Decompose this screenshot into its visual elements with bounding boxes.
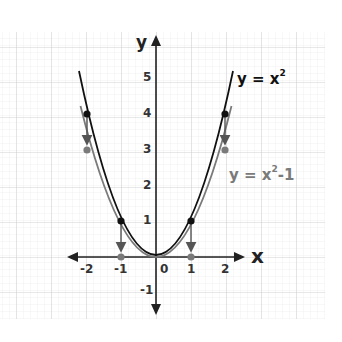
y-tick-1: 1 [143, 213, 151, 227]
x-tick-0: 0 [160, 262, 168, 276]
x-tick-1: 1 [187, 262, 195, 276]
y-tick-4: 4 [143, 106, 151, 120]
y-tick-5: 5 [143, 70, 151, 84]
x-axis-label: x [251, 244, 264, 268]
y-tick-3: 3 [143, 142, 151, 156]
equation-label-x-squared: y = x2 [237, 68, 286, 88]
equation-label-x-squared-minus-1: y = x2-1 [229, 164, 294, 184]
x-tick-minus-1: -1 [114, 262, 127, 276]
x-tick-minus-2: -2 [80, 262, 93, 276]
y-tick-minus-1: -1 [140, 283, 153, 297]
y-tick-2: 2 [143, 178, 151, 192]
x-tick-2: 2 [221, 262, 229, 276]
y-axis-label: y [136, 32, 147, 52]
